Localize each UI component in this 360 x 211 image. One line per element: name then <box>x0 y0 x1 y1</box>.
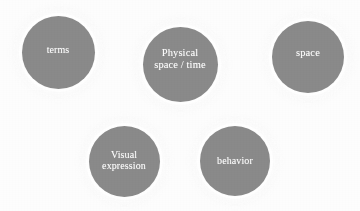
circle-node-terms[interactable]: terms <box>22 16 95 89</box>
circle-node-visual-expression[interactable]: Visualexpression <box>89 126 160 197</box>
circle-node-label: behavior <box>213 155 257 166</box>
circle-node-label: Physicalspace / time <box>150 47 209 71</box>
circle-node-physical-space-time[interactable]: Physicalspace / time <box>143 27 218 102</box>
diagram-canvas: termsPhysicalspace / timespaceVisualexpr… <box>0 0 360 211</box>
circle-node-label: Visualexpression <box>98 149 150 171</box>
circle-node-label: terms <box>43 44 74 55</box>
circle-node-behavior[interactable]: behavior <box>200 126 270 196</box>
circle-node-label: space <box>292 47 324 59</box>
circle-node-space[interactable]: space <box>272 21 344 93</box>
